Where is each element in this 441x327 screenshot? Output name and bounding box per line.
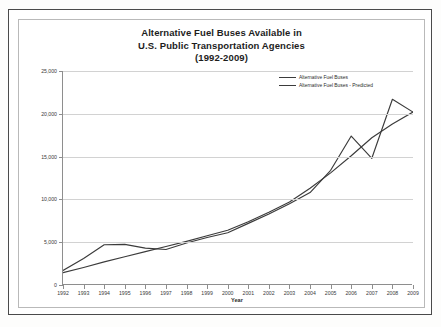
chart-title-line-2: U.S. Public Transportation Agencies <box>18 40 425 53</box>
x-tick-label: 2008 <box>387 290 399 296</box>
x-tick-mark <box>63 285 64 289</box>
gridline <box>63 242 413 243</box>
y-tick-mark <box>59 242 63 243</box>
legend-swatch <box>279 77 296 78</box>
legend-item: Alternative Fuel Buses <box>279 73 373 81</box>
series-line-2 <box>63 112 413 273</box>
x-tick-mark <box>84 285 85 289</box>
x-tick-label: 2003 <box>284 290 296 296</box>
x-tick-mark <box>289 285 290 289</box>
x-tick-label: 1997 <box>160 290 172 296</box>
x-tick-mark <box>248 285 249 289</box>
x-tick-label: 1999 <box>201 290 213 296</box>
y-tick-mark <box>59 114 63 115</box>
x-tick-label: 2007 <box>366 290 378 296</box>
x-tick-mark <box>125 285 126 289</box>
legend-swatch <box>279 85 296 86</box>
legend-label: Alternative Fuel Buses - Predicted <box>299 83 373 88</box>
x-tick-label: 1994 <box>98 290 110 296</box>
y-tick-label: 5,000 <box>44 239 57 245</box>
data-series-layer <box>63 71 413 285</box>
chart-title: Alternative Fuel Buses Available in U.S.… <box>18 27 425 65</box>
series-line-1 <box>63 99 413 270</box>
x-tick-mark <box>331 285 332 289</box>
y-tick-label: 10,000 <box>41 196 57 202</box>
x-tick-label: 1998 <box>181 290 193 296</box>
x-tick-label: 2002 <box>263 290 275 296</box>
chart-title-line-1: Alternative Fuel Buses Available in <box>18 27 425 40</box>
x-tick-mark <box>269 285 270 289</box>
x-tick-mark <box>104 285 105 289</box>
x-tick-label: 1992 <box>57 290 69 296</box>
x-tick-label: 2001 <box>243 290 255 296</box>
x-tick-mark <box>351 285 352 289</box>
y-tick-label: 25,000 <box>41 68 57 74</box>
y-tick-mark <box>59 199 63 200</box>
gridline <box>63 157 413 158</box>
x-tick-label: 1995 <box>119 290 131 296</box>
scanned-page: Alternative Fuel Buses Available in U.S.… <box>0 0 441 327</box>
gridline <box>63 71 413 72</box>
x-tick-mark <box>166 285 167 289</box>
y-tick-mark <box>59 157 63 158</box>
x-tick-label: 1996 <box>140 290 152 296</box>
y-tick-label: 15,000 <box>41 154 57 160</box>
x-tick-mark <box>207 285 208 289</box>
gridline <box>63 114 413 115</box>
x-axis-label: Year <box>62 297 412 303</box>
y-tick-mark <box>59 71 63 72</box>
x-tick-mark <box>310 285 311 289</box>
x-tick-label: 2006 <box>345 290 357 296</box>
x-tick-mark <box>392 285 393 289</box>
chart-title-line-3: (1992-2009) <box>18 52 425 65</box>
plot-area: 05,00010,00015,00020,00025,000 199219931… <box>62 71 412 285</box>
gridline <box>63 199 413 200</box>
x-tick-label: 2004 <box>304 290 316 296</box>
x-tick-label: 1993 <box>78 290 90 296</box>
x-tick-mark <box>228 285 229 289</box>
x-tick-label: 2005 <box>325 290 337 296</box>
x-tick-mark <box>372 285 373 289</box>
legend-item: Alternative Fuel Buses - Predicted <box>279 81 373 89</box>
x-tick-mark <box>413 285 414 289</box>
legend-label: Alternative Fuel Buses <box>299 75 348 80</box>
x-tick-mark <box>187 285 188 289</box>
chart-legend: Alternative Fuel BusesAlternative Fuel B… <box>279 73 373 89</box>
y-tick-label: 0 <box>54 282 57 288</box>
x-tick-label: 2009 <box>407 290 419 296</box>
x-tick-mark <box>145 285 146 289</box>
y-tick-label: 20,000 <box>41 111 57 117</box>
x-tick-label: 2000 <box>222 290 234 296</box>
